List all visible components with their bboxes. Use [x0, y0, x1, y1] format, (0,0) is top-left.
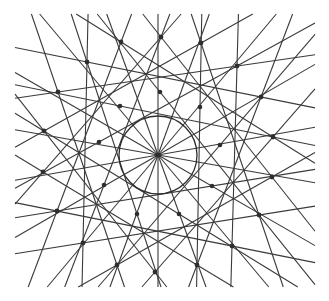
geometric-diagram: [0, 0, 329, 301]
inner-point: [218, 143, 223, 148]
outer-point: [257, 213, 262, 218]
outer-point: [55, 209, 60, 214]
star-line: [143, 14, 315, 231]
outer-point: [56, 90, 61, 95]
star-line: [189, 14, 293, 287]
inner-point: [118, 104, 123, 109]
inner-point: [177, 212, 182, 217]
inner-point: [198, 105, 203, 110]
outer-point: [259, 95, 264, 100]
outer-point: [115, 263, 120, 268]
diagram-lines: [15, 14, 315, 287]
outer-point: [81, 241, 86, 246]
outer-point: [195, 263, 200, 268]
outer-point: [270, 175, 275, 180]
outer-point: [119, 40, 124, 45]
outer-point: [41, 170, 46, 175]
inner-point: [97, 140, 102, 145]
radial-line: [47, 155, 158, 287]
star-line: [15, 203, 315, 263]
outer-point: [85, 60, 90, 65]
outer-point: [235, 64, 240, 69]
inner-point: [158, 90, 163, 95]
outer-point: [230, 244, 235, 249]
star-line: [15, 113, 298, 287]
outer-point: [271, 135, 276, 140]
radial-line: [40, 14, 158, 155]
outer-point: [159, 35, 164, 40]
inner-point: [210, 184, 215, 189]
outer-point: [42, 129, 47, 134]
inner-point: [102, 183, 107, 188]
outer-point: [153, 270, 158, 275]
center-point: [155, 152, 160, 157]
outer-point: [199, 41, 204, 46]
star-line: [15, 14, 181, 204]
inner-point: [135, 212, 140, 217]
star-line: [97, 14, 315, 285]
star-line: [31, 14, 124, 287]
star-line: [15, 94, 167, 287]
